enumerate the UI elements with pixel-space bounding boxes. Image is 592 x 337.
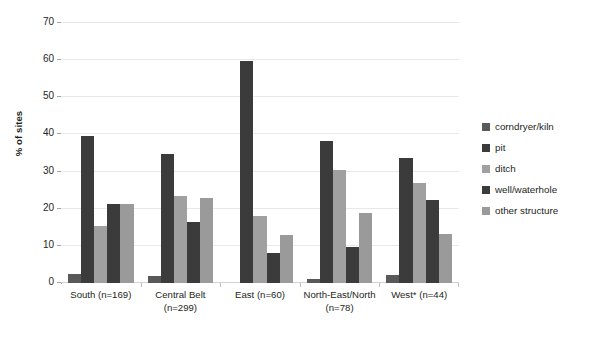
legend-item[interactable]: corndryer/kiln	[482, 116, 558, 137]
y-axis-tick-label: 30	[43, 166, 54, 176]
x-axis-label: West* (n=44)	[379, 288, 459, 314]
plot-area: 706050403020100	[61, 23, 459, 283]
x-axis-label-line: South (n=169)	[61, 288, 141, 301]
x-axis-tick	[220, 283, 221, 287]
x-axis-label-line: (n=299)	[141, 301, 221, 314]
bar-group	[61, 23, 141, 283]
x-axis-tick	[141, 283, 142, 287]
bar[interactable]	[187, 222, 200, 283]
bar[interactable]	[240, 61, 253, 283]
bar-group	[220, 23, 300, 283]
legend-item[interactable]: ditch	[482, 158, 558, 179]
legend-item[interactable]: other structure	[482, 200, 558, 221]
bar[interactable]	[307, 279, 320, 283]
legend-swatch-icon	[482, 186, 490, 194]
bar[interactable]	[399, 158, 412, 283]
legend-label: ditch	[495, 164, 516, 174]
legend-swatch-icon	[482, 165, 490, 173]
bar[interactable]	[346, 247, 359, 283]
bar[interactable]	[68, 274, 81, 283]
bar-group	[379, 23, 459, 283]
x-axis-label-line: North-East/North	[300, 288, 380, 301]
legend-label: corndryer/kiln	[495, 122, 554, 132]
y-axis-tick-label: 0	[48, 277, 54, 287]
y-axis-tick-label: 10	[43, 240, 54, 250]
bar[interactable]	[120, 204, 133, 283]
legend-swatch-icon	[482, 144, 490, 152]
legend-item[interactable]: well/waterhole	[482, 179, 558, 200]
bar[interactable]	[253, 216, 266, 283]
x-axis-label: Central Belt(n=299)	[141, 288, 221, 314]
bar[interactable]	[320, 141, 333, 283]
bar[interactable]	[107, 204, 120, 283]
bar-group	[141, 23, 221, 283]
x-axis-tick	[458, 283, 459, 287]
y-axis-title: % of sites	[13, 94, 24, 174]
chart-legend: corndryer/kilnpitditchwell/waterholeothe…	[482, 116, 558, 221]
bar[interactable]	[174, 196, 187, 283]
bar[interactable]	[81, 136, 94, 283]
bar[interactable]	[148, 276, 161, 283]
bar[interactable]	[161, 154, 174, 283]
x-axis-labels: South (n=169)Central Belt(n=299)East (n=…	[61, 288, 459, 314]
bar[interactable]	[386, 275, 399, 283]
bar-group	[300, 23, 380, 283]
x-axis-label: East (n=60)	[220, 288, 300, 314]
bar[interactable]	[333, 170, 346, 283]
legend-item[interactable]: pit	[482, 137, 558, 158]
y-axis-tick-label: 40	[43, 128, 54, 138]
x-axis-label: South (n=169)	[61, 288, 141, 314]
bar[interactable]	[94, 226, 107, 283]
x-axis-tick	[300, 283, 301, 287]
bar[interactable]	[413, 183, 426, 283]
bar-group-bars	[61, 23, 141, 283]
bar[interactable]	[200, 198, 213, 283]
x-axis-label-line: Central Belt	[141, 288, 221, 301]
bar-group-bars	[379, 23, 459, 283]
legend-label: other structure	[495, 206, 558, 216]
bar-group-bars	[141, 23, 221, 283]
x-axis-label-line: (n=78)	[300, 301, 380, 314]
y-axis-tick-label: 60	[43, 54, 54, 64]
legend-label: pit	[495, 143, 505, 153]
bar[interactable]	[267, 253, 280, 283]
bar[interactable]	[359, 213, 372, 283]
x-axis-label: North-East/North(n=78)	[300, 288, 380, 314]
bar[interactable]	[439, 234, 452, 283]
x-axis-label-line: West* (n=44)	[379, 288, 459, 301]
x-axis-tick	[379, 283, 380, 287]
y-axis-tick-label: 50	[43, 91, 54, 101]
y-axis-tick-label: 20	[43, 203, 54, 213]
legend-swatch-icon	[482, 123, 490, 131]
bar-chart: % of sites 706050403020100 South (n=169)…	[0, 0, 592, 337]
y-axis-tick-label: 70	[43, 17, 54, 27]
x-axis-label-line: East (n=60)	[220, 288, 300, 301]
bar-groups	[61, 23, 459, 283]
legend-label: well/waterhole	[495, 185, 557, 195]
bar-group-bars	[300, 23, 380, 283]
bar[interactable]	[280, 235, 293, 283]
bar-group-bars	[220, 23, 300, 283]
legend-swatch-icon	[482, 207, 490, 215]
bar[interactable]	[426, 200, 439, 283]
